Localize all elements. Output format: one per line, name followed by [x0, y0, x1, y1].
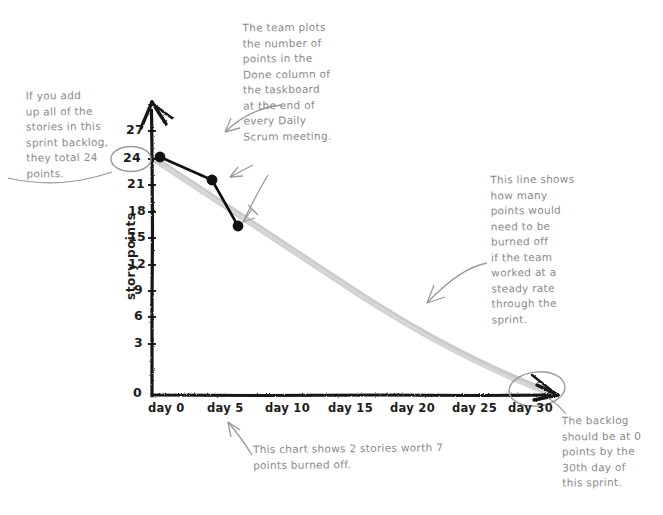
y-tick-label-3: 3	[134, 335, 143, 350]
y-tick-label-15: 15	[128, 229, 146, 244]
x-tick-label-day-10: day 10	[265, 401, 310, 415]
annotation-end-of-sprint: The backlog should be at 0 points by the…	[562, 412, 661, 491]
y-axis	[141, 102, 172, 396]
pointer-second-point	[230, 165, 253, 177]
y-tick-label-0: 0	[133, 385, 142, 400]
x-tick-label-day-20: day 20	[390, 401, 435, 415]
y-tick-label-18: 18	[128, 203, 146, 218]
pointer-third-point	[243, 175, 268, 222]
y-tick-label-9: 9	[134, 282, 143, 297]
x-tick-label-day-25: day 25	[452, 401, 497, 415]
data-point-day7	[233, 221, 244, 232]
ideal-burndown-line	[156, 160, 548, 393]
x-tick-label-day-0: day 0	[148, 401, 185, 415]
annotation-chart-shows: This chart shows 2 stories worth 7 point…	[253, 440, 473, 473]
annotation-team-plots: The team plots the number of points in t…	[242, 19, 348, 144]
x-tick-label-day-5: day 5	[207, 401, 244, 415]
data-point-day5	[207, 175, 218, 186]
annotation-backlog-total: If you add up all of the stories in this…	[26, 87, 137, 181]
pointer-ideal-line	[427, 263, 487, 303]
x-axis	[152, 375, 558, 400]
annotation-ideal-line: This line shows how many points would ne…	[490, 172, 587, 328]
data-point-day0	[155, 152, 166, 163]
x-tick-label-day-15: day 15	[328, 401, 373, 415]
pointer-chart-shows	[228, 422, 252, 455]
x-tick-label-day-30: day 30	[508, 401, 553, 415]
y-tick-label-6: 6	[134, 308, 143, 323]
y-tick-label-12: 12	[128, 256, 146, 271]
